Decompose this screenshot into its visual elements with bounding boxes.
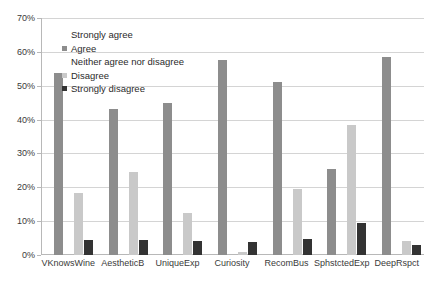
y-tick-label: 0% <box>22 251 35 260</box>
x-axis-label: RecomBus <box>259 258 314 269</box>
bar-group <box>315 18 370 255</box>
bar-chart: 0%10%20%30%40%50%60%70% VKnowsWineAesthe… <box>0 0 436 303</box>
legend-label: Strongly disagree <box>71 82 145 96</box>
bar <box>109 109 118 255</box>
bar <box>283 204 292 255</box>
bar <box>64 194 73 255</box>
y-tick-label: 10% <box>17 217 35 226</box>
chart-legend: Strongly agreeAgreeNeither agree nor dis… <box>62 28 184 96</box>
bar <box>327 169 336 255</box>
bar <box>293 189 302 255</box>
legend-item[interactable]: Strongly agree <box>62 28 184 42</box>
x-axis-label: DeepRspct <box>369 258 424 269</box>
bar <box>183 213 192 255</box>
x-axis-label: Curiosity <box>205 258 260 269</box>
bar <box>412 245 421 255</box>
bar <box>218 60 227 255</box>
y-tick-label: 60% <box>17 47 35 56</box>
x-axis-label: SphstctedExp <box>314 258 370 269</box>
bar <box>357 223 366 255</box>
y-axis: 0%10%20%30%40%50%60%70% <box>0 0 41 256</box>
bar <box>193 241 202 255</box>
x-axis-label: AestheticB <box>96 258 151 269</box>
y-tick-label: 70% <box>17 14 35 23</box>
bar-group <box>369 18 424 255</box>
bar <box>248 242 257 255</box>
x-axis-label: UniqueExp <box>150 258 205 269</box>
y-tick-label: 20% <box>17 183 35 192</box>
legend-item[interactable]: Neither agree nor disagree <box>62 55 184 69</box>
legend-item[interactable]: Agree <box>62 42 184 56</box>
legend-swatch-icon <box>62 46 67 51</box>
bar <box>347 125 356 255</box>
bar <box>74 193 83 255</box>
bar <box>238 252 247 255</box>
bar <box>273 82 282 255</box>
legend-item[interactable]: Strongly disagree <box>62 82 184 96</box>
y-tick-label: 30% <box>17 149 35 158</box>
legend-label: Strongly agree <box>71 28 133 42</box>
legend-label: Agree <box>71 42 96 56</box>
legend-swatch-icon <box>62 59 67 64</box>
bar <box>337 196 346 255</box>
bar <box>54 73 63 255</box>
bar <box>84 240 93 255</box>
bar <box>392 250 401 255</box>
x-axis-labels: VKnowsWineAestheticBUniqueExpCuriosityRe… <box>41 258 424 269</box>
bar-group <box>260 18 315 255</box>
bar <box>303 239 312 255</box>
legend-swatch-icon <box>62 32 67 37</box>
bar <box>129 172 138 255</box>
legend-label: Disagree <box>71 69 109 83</box>
legend-label: Neither agree nor disagree <box>71 55 184 69</box>
legend-item[interactable]: Disagree <box>62 69 184 83</box>
bar <box>228 253 237 255</box>
legend-swatch-icon <box>62 86 67 91</box>
bar <box>163 103 172 255</box>
bar <box>382 57 391 255</box>
bar <box>402 241 411 255</box>
bar <box>119 200 128 255</box>
bar <box>173 177 182 255</box>
y-tick-mark <box>37 255 41 256</box>
bar-group <box>205 18 260 255</box>
legend-swatch-icon <box>62 73 67 78</box>
x-axis-label: VKnowsWine <box>41 258 96 269</box>
bar <box>139 240 148 255</box>
y-tick-label: 50% <box>17 81 35 90</box>
y-tick-label: 40% <box>17 115 35 124</box>
